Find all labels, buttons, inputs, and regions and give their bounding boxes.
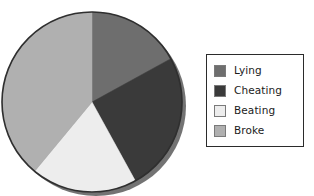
legend-swatch-cheating	[214, 85, 226, 97]
legend-label-broke: Broke	[234, 125, 264, 136]
legend-item-broke[interactable]: Broke	[214, 121, 303, 140]
legend-swatch-lying	[214, 65, 226, 77]
pie-chart-svg	[0, 0, 200, 196]
legend-item-lying[interactable]: Lying	[214, 61, 303, 80]
legend-item-cheating[interactable]: Cheating	[214, 81, 303, 100]
legend-swatch-beating	[214, 105, 226, 117]
pie-chart-figure: Lying Cheating Beating Broke	[0, 0, 314, 196]
legend-label-lying: Lying	[234, 65, 262, 76]
legend-label-beating: Beating	[234, 105, 275, 116]
legend-swatch-broke	[214, 125, 226, 137]
pie-chart-area	[0, 0, 200, 196]
legend-item-beating[interactable]: Beating	[214, 101, 303, 120]
legend-label-cheating: Cheating	[234, 85, 282, 96]
pie-slices	[2, 12, 182, 192]
chart-legend: Lying Cheating Beating Broke	[206, 54, 304, 147]
